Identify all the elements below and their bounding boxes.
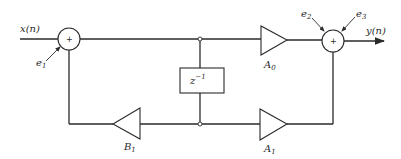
sum1-plus: +	[66, 35, 73, 44]
e1-arrow	[46, 47, 60, 61]
e2-arrow	[312, 18, 324, 31]
e3-label: e3	[356, 8, 367, 21]
e3-arrow	[342, 17, 355, 31]
summing-node-1: +	[58, 28, 80, 50]
gain-a1	[260, 109, 287, 140]
output-label: y(n)	[365, 25, 386, 36]
input-label: x(n)	[20, 23, 40, 34]
sum2-plus: +	[330, 37, 337, 46]
b1-label: B1	[123, 141, 136, 154]
top-junction	[198, 37, 202, 41]
block-diagram: x(n) + e1 z−1 A0 + e2 e3 y(n) B1	[0, 0, 401, 159]
e1-label: e1	[36, 57, 46, 70]
summing-node-2: +	[322, 30, 344, 52]
gain-b1	[113, 108, 140, 139]
delay-block: z−1	[180, 68, 224, 93]
gain-a0	[261, 26, 287, 55]
a0-label: A0	[263, 59, 276, 72]
bottom-junction	[198, 122, 202, 126]
a1-label: A1	[263, 143, 276, 156]
e2-label: e2	[301, 8, 312, 21]
